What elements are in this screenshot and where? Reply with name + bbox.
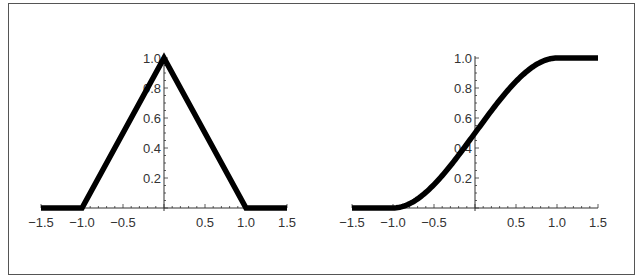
y-tick-label: 0.2 bbox=[454, 171, 472, 186]
y-tick-label: 0.6 bbox=[454, 111, 472, 126]
x-tick-label: 0.5 bbox=[507, 215, 525, 230]
x-tick-label: −0.5 bbox=[421, 215, 447, 230]
y-tick-label: 0.8 bbox=[454, 81, 472, 96]
x-tick-label: −1.5 bbox=[339, 215, 365, 230]
x-tick-label: 1.0 bbox=[548, 215, 566, 230]
x-tick-label: −1.0 bbox=[380, 215, 406, 230]
x-tick-label: 1.5 bbox=[589, 215, 607, 230]
y-tick-label: 1.0 bbox=[454, 51, 472, 66]
chart-smooth-step: −1.5−1.0−0.50.51.01.50.20.40.60.81.0 bbox=[0, 0, 644, 278]
